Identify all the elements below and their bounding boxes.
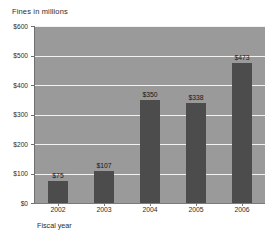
bar-value-label: $473 — [220, 54, 264, 62]
bar-value-label: $338 — [174, 94, 218, 102]
y-axis-tick-mark — [31, 144, 34, 145]
bar — [140, 100, 160, 203]
y-axis-tick-mark — [31, 174, 34, 175]
x-axis-tick-label: 2006 — [220, 206, 264, 214]
x-axis-tick-label: 2004 — [128, 206, 172, 214]
y-axis-tick-label: $200 — [0, 141, 28, 148]
bar — [186, 103, 206, 203]
bar — [48, 181, 68, 203]
y-axis-tick-label: $100 — [0, 170, 28, 177]
y-axis-tick-mark — [31, 115, 34, 116]
y-axis-tick-label: $300 — [0, 111, 28, 118]
x-axis-tick-label: 2005 — [174, 206, 218, 214]
bar-value-label: $107 — [82, 162, 126, 170]
x-axis-tick-mark — [242, 203, 243, 206]
bar — [94, 171, 114, 203]
y-axis-tick-mark — [31, 26, 34, 27]
y-axis-tick-mark — [31, 56, 34, 57]
bar-value-label: $350 — [128, 91, 172, 99]
x-axis-tick-mark — [196, 203, 197, 206]
y-axis-tick-label: $500 — [0, 52, 28, 59]
y-axis-tick-mark — [31, 203, 34, 204]
y-axis-ticks: $0$100$200$300$400$500$600 — [0, 0, 32, 242]
bar — [232, 63, 252, 203]
x-axis-tick-mark — [58, 203, 59, 206]
gridline — [35, 85, 265, 86]
gridline — [35, 26, 265, 27]
bar-chart: Fines in millions $0$100$200$300$400$500… — [0, 0, 270, 242]
y-axis-tick-label: $0 — [0, 200, 28, 207]
x-axis-tick-label: 2003 — [82, 206, 126, 214]
x-axis-title: Fiscal year — [37, 221, 72, 230]
x-axis-tick-mark — [150, 203, 151, 206]
x-axis-tick-label: 2002 — [36, 206, 80, 214]
y-axis-tick-label: $400 — [0, 82, 28, 89]
y-axis-tick-label: $600 — [0, 23, 28, 30]
bar-value-label: $75 — [36, 172, 80, 180]
y-axis-tick-mark — [31, 85, 34, 86]
x-axis-tick-mark — [104, 203, 105, 206]
